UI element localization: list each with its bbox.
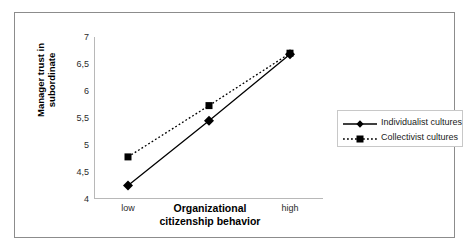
x-axis-title-line2: citizenship behavior [135,215,285,228]
legend-label-collectivist: Collectivist cultures [378,132,458,142]
y-tick-label-6-5: 6,5 [49,60,89,69]
plot-area-wrapper [94,37,323,199]
x-axis-title: Organizational citizenship behavior [135,202,285,228]
series-canvas [94,37,323,199]
y-tick-label-6: 6 [49,87,89,96]
y-tick-label-4: 4 [49,195,89,204]
legend-item-individualist: Individualist cultures [338,114,462,129]
y-tick-label-7: 7 [49,33,89,42]
y-axis-tick-labels: 7 6,5 6 5,5 5 4,5 4 [47,37,89,199]
y-axis-title-line1: Manager trust in [35,5,46,155]
y-tick-label-5-5: 5,5 [49,114,89,123]
y-tick-label-4-5: 4,5 [49,168,89,177]
legend-item-collectivist: Collectivist cultures [338,129,462,144]
y-tick-label-5: 5 [49,141,89,150]
chart-figure: Manager trust in subordinate 7 6,5 6 5,5… [0,0,472,252]
chart-legend: Individualist cultures Collectivist cult… [337,110,463,147]
legend-solid-line-diamond-icon [342,116,378,128]
legend-label-individualist: Individualist cultures [378,117,462,127]
figure-frame: Manager trust in subordinate 7 6,5 6 5,5… [14,12,455,238]
collectivist-marker-mid [206,102,213,109]
x-axis-title-line1: Organizational [135,202,285,215]
legend-dotted-line-square-icon [342,131,378,143]
collectivist-marker-low [125,153,132,160]
